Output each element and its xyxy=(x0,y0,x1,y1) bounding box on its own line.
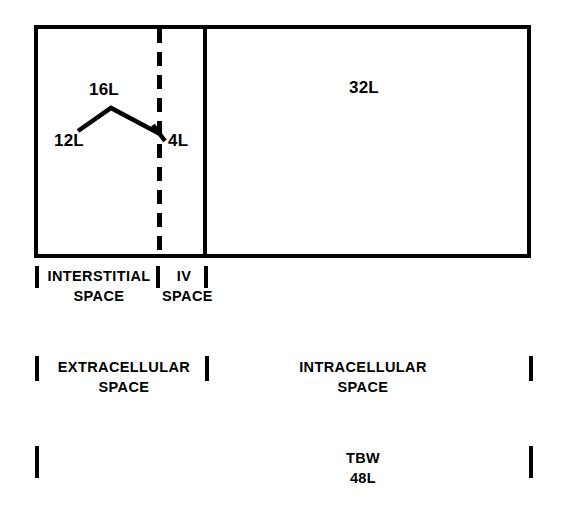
plasma-water-volume-label: 12L xyxy=(54,132,84,149)
plasma-interstitial-connector xyxy=(70,100,175,145)
bracket-label-intracellular: INTRACELLULAR SPACE xyxy=(243,357,483,397)
bracket-label-iv-line1: IV xyxy=(177,268,192,284)
bracket-label-interstitial-line2: SPACE xyxy=(41,286,157,306)
bracket-label-interstitial: INTERSTITIAL SPACE xyxy=(41,266,157,306)
tick-intracellular-right xyxy=(529,356,533,381)
bracket-label-interstitial-line1: INTERSTITIAL xyxy=(47,268,150,284)
iv-volume-label: 4L xyxy=(168,132,188,149)
tick-extracellular-left xyxy=(35,356,39,381)
bracket-label-tbw-line2: 48L xyxy=(243,468,483,488)
bracket-label-extracellular-line1: EXTRACELLULAR xyxy=(58,359,190,375)
bracket-label-iv: IV SPACE xyxy=(162,266,206,306)
bracket-label-iv-line2: SPACE xyxy=(162,286,206,306)
tick-interstitial-left xyxy=(35,266,39,288)
intracellular-volume-label: 32L xyxy=(349,79,379,96)
tick-tbw-right xyxy=(529,446,533,478)
fluid-compartment-diagram: 16L 12L 4L 32L INTERSTITIAL SPACE IV SPA… xyxy=(0,0,564,513)
tick-tbw-left xyxy=(35,446,39,478)
bracket-label-extracellular: EXTRACELLULAR SPACE xyxy=(42,357,206,397)
interstitial-volume-label: 16L xyxy=(89,81,119,98)
bracket-label-tbw: TBW 48L xyxy=(243,448,483,488)
bracket-label-tbw-line1: TBW xyxy=(346,450,380,466)
bracket-label-extracellular-line2: SPACE xyxy=(42,377,206,397)
bracket-row-ecf-icf: EXTRACELLULAR SPACE INTRACELLULAR SPACE xyxy=(0,356,564,410)
ecf-icf-solid-divider xyxy=(203,25,207,258)
bracket-label-intracellular-line2: SPACE xyxy=(243,377,483,397)
bracket-row-tbw: TBW 48L xyxy=(0,446,564,502)
bracket-row-interstitial-iv: INTERSTITIAL SPACE IV SPACE xyxy=(0,266,564,318)
bracket-label-intracellular-line1: INTRACELLULAR xyxy=(299,359,427,375)
